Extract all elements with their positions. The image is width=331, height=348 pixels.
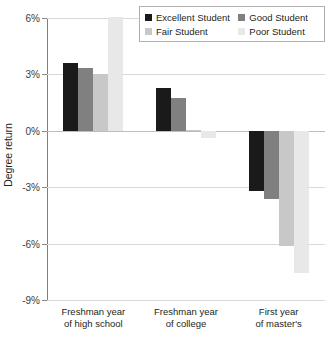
gridline bbox=[47, 300, 325, 301]
legend-row-1: Excellent Student Good Student bbox=[145, 10, 320, 24]
chart-legend: Excellent Student Good Student Fair Stud… bbox=[139, 6, 325, 42]
y-tick-label: -9% bbox=[6, 295, 40, 306]
bar bbox=[264, 131, 279, 200]
legend-label: Good Student bbox=[249, 12, 308, 23]
legend-label: Poor Student bbox=[249, 26, 304, 37]
y-tick-mark bbox=[42, 244, 47, 245]
degree-return-bar-chart: Degree return 6%3%0%-3%-6%-9% Freshman y… bbox=[0, 0, 331, 348]
y-axis-title: Degree return bbox=[0, 0, 16, 310]
legend-row-2: Fair Student Poor Student bbox=[145, 24, 320, 38]
x-axis-category-label: First year of master's bbox=[224, 306, 331, 329]
y-tick-mark bbox=[42, 300, 47, 301]
bar bbox=[108, 17, 123, 131]
legend-item-poor-student[interactable]: Poor Student bbox=[238, 24, 320, 38]
y-tick-mark bbox=[42, 18, 47, 19]
bar bbox=[78, 68, 93, 131]
y-tick-mark bbox=[42, 131, 47, 132]
y-tick-label: 0% bbox=[6, 125, 40, 136]
legend-item-good-student[interactable]: Good Student bbox=[238, 10, 320, 24]
y-tick-mark bbox=[42, 74, 47, 75]
bar bbox=[201, 131, 216, 139]
bar bbox=[186, 130, 201, 131]
legend-label: Fair Student bbox=[156, 26, 208, 37]
bar bbox=[171, 98, 186, 131]
bar bbox=[294, 131, 309, 273]
legend-label: Excellent Student bbox=[156, 12, 230, 23]
y-tick-label: 3% bbox=[6, 69, 40, 80]
y-tick-label: -6% bbox=[6, 238, 40, 249]
y-tick-label: 6% bbox=[6, 13, 40, 24]
legend-item-fair-student[interactable]: Fair Student bbox=[145, 24, 238, 38]
bar bbox=[63, 63, 78, 131]
legend-swatch-icon bbox=[145, 14, 152, 21]
y-tick-label: -3% bbox=[6, 182, 40, 193]
legend-item-excellent-student[interactable]: Excellent Student bbox=[145, 10, 238, 24]
legend-swatch-icon bbox=[238, 14, 245, 21]
y-tick-mark bbox=[42, 187, 47, 188]
bar bbox=[93, 74, 108, 130]
bar bbox=[156, 88, 171, 131]
legend-swatch-icon bbox=[145, 28, 152, 35]
bar bbox=[249, 131, 264, 191]
bar bbox=[279, 131, 294, 247]
legend-swatch-icon bbox=[238, 28, 245, 35]
plot-area bbox=[47, 18, 325, 300]
